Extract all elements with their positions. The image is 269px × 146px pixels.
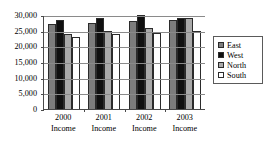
bar-north <box>104 31 112 109</box>
x-axis-tickmark <box>165 109 166 112</box>
legend-swatch-icon <box>218 62 224 68</box>
chart-legend: EastWestNorthSouth <box>213 36 263 84</box>
y-axis-tickmark <box>41 32 44 33</box>
bar-south <box>153 33 161 109</box>
legend-item-west[interactable]: West <box>218 50 259 60</box>
legend-item-label: South <box>227 71 246 80</box>
bar-east <box>88 23 96 109</box>
y-axis-tick-label: 10,000 <box>14 75 37 83</box>
y-axis-tick-label: 15,000 <box>14 59 37 67</box>
x-axis-category-labels: 2000Income2001Income2002Income2003Income <box>43 113 205 143</box>
plot-area <box>43 16 205 110</box>
x-axis-tickmark <box>125 109 126 112</box>
legend-item-east[interactable]: East <box>218 40 259 50</box>
y-axis-tick-label: 25,000 <box>14 28 37 36</box>
y-axis-tickmark <box>41 79 44 80</box>
bar-north <box>64 34 72 109</box>
bar-south <box>112 34 120 109</box>
gridline <box>44 94 205 95</box>
bar-chart: 05,00010,00015,00020,00025,00030,000 200… <box>0 0 269 146</box>
legend-item-label: West <box>227 51 243 60</box>
x-axis-category-year: 2001 <box>84 113 125 124</box>
y-axis-tick-label: 20,000 <box>14 43 37 51</box>
y-axis-tickmark <box>41 16 44 17</box>
y-axis-tick-label: 30,000 <box>14 12 37 20</box>
x-axis-category-metric: Income <box>165 124 206 135</box>
y-axis-tickmark <box>41 47 44 48</box>
x-axis-category-metric: Income <box>43 124 84 135</box>
x-axis-category-label: 2003Income <box>165 113 206 143</box>
y-axis-tickmark <box>41 63 44 64</box>
legend-swatch-icon <box>218 42 224 48</box>
x-axis-category-year: 2000 <box>43 113 84 124</box>
x-axis-category-year: 2002 <box>124 113 165 124</box>
x-axis-category-metric: Income <box>124 124 165 135</box>
x-axis-category-label: 2000Income <box>43 113 84 143</box>
bar-south <box>193 31 201 109</box>
legend-swatch-icon <box>218 52 224 58</box>
x-axis-tickmark <box>84 109 85 112</box>
gridline <box>44 47 205 48</box>
bar-east <box>169 20 177 109</box>
bar-north <box>145 28 153 109</box>
x-axis-category-label: 2002Income <box>124 113 165 143</box>
legend-item-south[interactable]: South <box>218 70 259 80</box>
gridline <box>44 79 205 80</box>
y-axis-tickmark <box>41 110 44 111</box>
bar-east <box>129 21 137 109</box>
x-axis-category-year: 2003 <box>165 113 206 124</box>
legend-swatch-icon <box>218 72 224 78</box>
gridline <box>44 32 205 33</box>
legend-item-north[interactable]: North <box>218 60 259 70</box>
y-axis-tickmark <box>41 94 44 95</box>
bar-east <box>48 24 56 109</box>
gridline <box>44 16 205 17</box>
y-axis-tick-labels: 05,00010,00015,00020,00025,00030,000 <box>0 0 41 146</box>
y-axis-tick-label: 0 <box>33 106 37 114</box>
legend-item-label: East <box>227 41 241 50</box>
y-axis-tick-label: 5,000 <box>19 90 37 98</box>
gridline <box>44 63 205 64</box>
legend-item-label: North <box>227 61 246 70</box>
x-axis-category-label: 2001Income <box>84 113 125 143</box>
x-axis-category-metric: Income <box>84 124 125 135</box>
bar-west <box>56 20 64 109</box>
